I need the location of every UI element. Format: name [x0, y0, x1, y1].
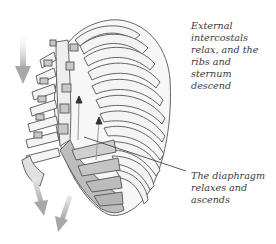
- intercostals-label-line: descend: [191, 80, 258, 92]
- ribs-left: [26, 52, 60, 164]
- rib-cage: [22, 20, 170, 216]
- diaphragm-label-line: The diaphragm: [191, 170, 265, 182]
- intercostals-label-line: External: [191, 20, 258, 32]
- intercostals-label-line: relax, and the: [191, 44, 258, 56]
- diaphragm-label-line: relaxes and: [191, 182, 265, 194]
- intercostals-label: External intercostals relax, and the rib…: [191, 20, 258, 92]
- intercostals-label-line: intercostals: [191, 32, 258, 44]
- intercostals-label-line: sternum: [191, 68, 258, 80]
- intercostals-label-line: ribs and: [191, 56, 258, 68]
- diaphragm-label-line: ascends: [191, 194, 265, 206]
- descend-arrow-left-icon: [15, 30, 31, 84]
- diaphragm-label: The diaphragm relaxes and ascends: [191, 170, 265, 206]
